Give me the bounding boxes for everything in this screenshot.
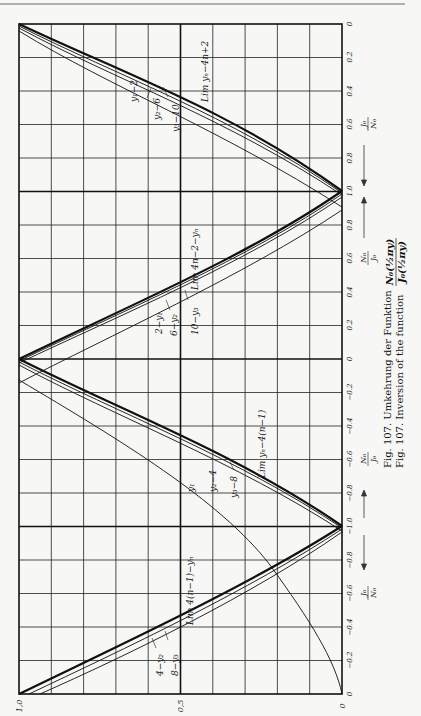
label-lim-4n-2-yn: Lim 4n−2−yₙ	[190, 228, 200, 291]
label-y2-minus-6: y₂−6	[152, 98, 162, 121]
label-y2-minus-4: y₂−4	[208, 470, 218, 493]
label-y3-minus-10: y₃−10	[171, 104, 181, 133]
svg-text:N₀: N₀	[359, 252, 368, 264]
label-y1: y₁	[186, 483, 196, 493]
bottom-tick-label: 0	[338, 703, 347, 708]
right-tick-label: 0.2	[346, 319, 354, 331]
bottom-tick-label: 1,0	[15, 700, 24, 713]
label-lim-4-n-minus-1-yn: Lim 4(n−1)−yₙ	[185, 556, 195, 626]
svg-text:N₀: N₀	[369, 587, 378, 599]
caption-german: Fig. 107. Umkehrung der Funktion	[382, 290, 393, 468]
right-tick-label: 0	[346, 356, 354, 361]
svg-text:J₀(½πy): J₀(½πy)	[396, 241, 407, 285]
right-tick-label: 0	[346, 691, 354, 696]
right-tick-label: 0.8	[346, 152, 354, 164]
axis-label-J0-over-N0-bottom: J₀ N₀	[359, 586, 378, 600]
right-tick-label: 0.6	[346, 118, 354, 130]
svg-text:N₀(½πy): N₀(½πy)	[384, 238, 395, 286]
figure-caption: Fig. 107. Umkehrung der Funktion Fig. 10…	[382, 238, 407, 468]
bottom-axis-ticks: 1,00,50	[15, 700, 347, 713]
arrow-up-icon	[362, 490, 367, 496]
caption-fraction: N₀(½πy) J₀(½πy)	[384, 238, 407, 286]
right-tick-label: −0.2	[346, 651, 354, 669]
bottom-tick-label: 0,5	[176, 700, 185, 713]
label-lim-yn-4-n-minus-1: Lim yₙ−4(n−1)	[257, 409, 267, 479]
right-tick-label: −0.6	[346, 450, 354, 468]
right-tick-label: 0	[346, 21, 354, 26]
right-tick-label: −1.0	[346, 517, 354, 535]
right-tick-label: −0.2	[346, 383, 354, 401]
direction-arrows	[362, 145, 367, 570]
arrow-down-icon	[362, 180, 367, 186]
svg-text:N₀: N₀	[359, 453, 368, 465]
svg-text:J₀: J₀	[369, 455, 378, 464]
right-tick-label: 0.2	[346, 51, 354, 63]
right-tick-label: −0.4	[346, 418, 354, 435]
right-tick-label: −0.6	[346, 584, 354, 602]
label-4-minus-y2: 4−y₂	[155, 654, 165, 677]
svg-text:N₀: N₀	[369, 118, 378, 130]
right-tick-label: 0.8	[346, 219, 354, 231]
right-tick-label: −0.8	[346, 551, 354, 569]
figure-107-chart: y₁−2 y₂−6 y₃−10 Lim yₙ−4n+2 Lim 4n−2−yₙ …	[0, 0, 421, 716]
arrow-up-icon	[362, 197, 367, 203]
label-8-minus-y3: 8−y₃	[170, 654, 180, 676]
label-10-minus-y3: 10−y₃	[190, 307, 200, 335]
caption-english: Fig. 107. Inversion of the function	[394, 294, 405, 468]
axis-label-J0-over-N0-top: J₀ N₀	[359, 117, 378, 131]
label-2-minus-y1: 2−y₁	[154, 312, 164, 335]
label-6-minus-y2: 6−y₂	[169, 314, 179, 336]
right-tick-label: −0.4	[346, 619, 354, 636]
right-tick-label: −0.8	[346, 484, 354, 502]
axis-label-N0-over-J0-mid2: N₀ J₀	[359, 452, 378, 466]
arrow-down-icon	[362, 564, 367, 570]
right-tick-label: 0.4	[346, 85, 354, 96]
right-axis-ticks: 00.20.40.60.81.00.80.60.40.20−0.2−0.4−0.…	[346, 21, 354, 696]
axis-label-N0-over-J0-mid: N₀ J₀	[359, 251, 378, 265]
right-tick-label: 0.4	[346, 286, 354, 297]
label-y1-minus-2: y₁−2	[129, 80, 139, 103]
svg-text:J₀: J₀	[359, 120, 368, 129]
label-y3-minus-8: y₃−8	[229, 476, 239, 499]
svg-text:J₀: J₀	[369, 254, 378, 263]
svg-text:J₀: J₀	[359, 589, 368, 598]
label-lim-yn-4n-plus-2: Lim yₙ−4n+2	[200, 40, 210, 103]
right-tick-label: 1.0	[346, 185, 354, 197]
right-tick-label: 0.6	[346, 252, 354, 264]
axis-fraction-labels: J₀ N₀ N₀ J₀ N₀ J₀ J₀ N₀	[359, 117, 378, 600]
